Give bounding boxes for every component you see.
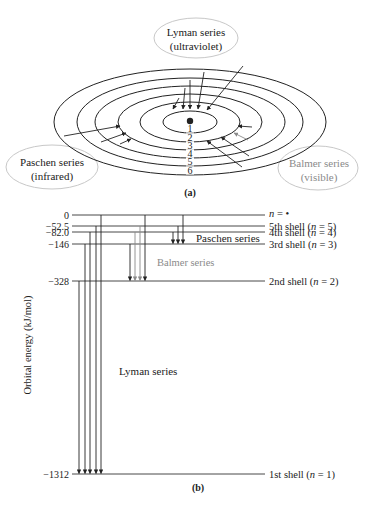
- energy-level-diagram: 0n = •−52.55th shell (n = 5)−82.04th she…: [22, 208, 339, 494]
- lyman-label-line2: (ultraviolet): [170, 40, 223, 53]
- energy-value: −328: [48, 276, 69, 287]
- paschen-label-line1: Paschen series: [20, 156, 84, 168]
- hydrogen-emission-figure: 123456 Lyman series (ultraviolet) Pasche…: [0, 0, 370, 511]
- balmer-series-label: Balmer series: [157, 257, 214, 268]
- shell-label: n = •: [269, 208, 289, 219]
- lyman-series-label: Lyman series: [119, 365, 177, 377]
- energy-value: −1312: [43, 469, 69, 480]
- shell-label: 3rd shell (n = 3): [269, 239, 337, 251]
- energy-levels: 0n = •−52.55th shell (n = 5)−82.04th she…: [43, 208, 339, 481]
- paschen-series-label: Paschen series: [196, 232, 260, 244]
- lyman-balloon: [154, 18, 238, 58]
- transition-arrows: [79, 215, 183, 474]
- caption-a: (a): [184, 187, 196, 199]
- energy-value: −82.0: [46, 227, 69, 238]
- lyman-label-line1: Lyman series: [167, 26, 225, 38]
- nucleus-dot: [187, 118, 193, 124]
- paschen-orbit-arrows: [64, 126, 131, 144]
- paschen-label-line2: (infrared): [31, 170, 73, 183]
- energy-value: 0: [64, 210, 69, 221]
- caption-b: (b): [192, 482, 204, 494]
- balmer-label-line1: Balmer series: [289, 157, 349, 169]
- balmer-transitions: [130, 215, 145, 281]
- energy-value: −146: [48, 239, 69, 250]
- shell-label: 4th shell (n = 4): [269, 227, 337, 239]
- shell-label: 2nd shell (n = 2): [269, 276, 339, 288]
- shell-number-6: 6: [188, 165, 193, 176]
- shell-label: 1st shell (n = 1): [269, 469, 336, 481]
- lyman-transitions: [79, 215, 101, 474]
- y-axis-label: Orbital energy (kJ/mol): [22, 295, 34, 394]
- orbit-diagram: 123456 Lyman series (ultraviolet) Pasche…: [6, 18, 358, 199]
- paschen-transitions: [173, 215, 183, 244]
- balmer-label-line2: (visible): [301, 171, 338, 184]
